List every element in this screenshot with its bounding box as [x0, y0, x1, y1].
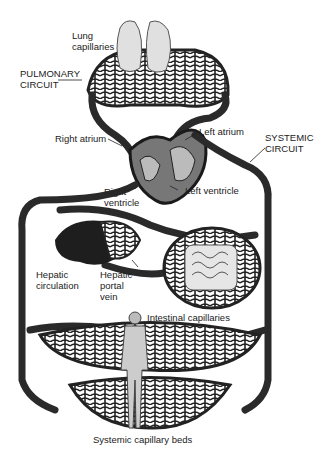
- upper-capillary-bed: [40, 323, 260, 371]
- lower-capillary-bed: [70, 378, 230, 429]
- label-systemic-capillary-beds: Systemic capillary beds: [93, 434, 192, 445]
- label-right-ventricle: Right ventricle: [104, 186, 139, 208]
- label-left-atrium: Left atrium: [199, 126, 244, 137]
- label-right-atrium: Right atrium: [55, 133, 106, 144]
- intestine: [164, 228, 260, 308]
- label-left-ventricle: Left ventricle: [185, 185, 239, 196]
- label-intestinal-capillaries: Intestinal capillaries: [147, 312, 230, 323]
- label-lung-capillaries: Lung capillaries: [72, 30, 114, 52]
- label-hepatic-portal-vein: Hepatic portal vein: [100, 269, 132, 302]
- label-pulmonary-circuit: PULMONARY CIRCUIT: [20, 68, 80, 90]
- label-hepatic-circulation: Hepatic circulation: [36, 269, 79, 291]
- label-systemic-circuit: SYSTEMIC CIRCUIT: [265, 132, 314, 154]
